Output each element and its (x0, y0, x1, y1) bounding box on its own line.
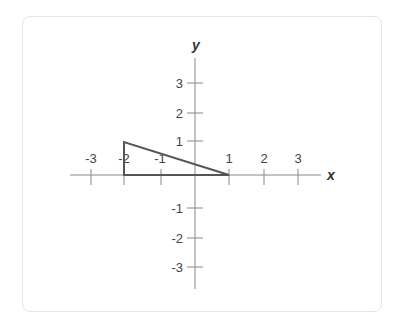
x-tick-label: 3 (294, 151, 301, 166)
x-tick-label: 1 (225, 151, 232, 166)
y-tick-label: -3 (171, 260, 183, 275)
y-tick-label: -1 (171, 201, 183, 216)
x-axis-label: x (326, 167, 336, 183)
y-tick-label: 2 (176, 106, 183, 121)
x-tick-label: -3 (85, 151, 97, 166)
x-tick-label: 2 (260, 151, 267, 166)
y-axis-label: y (191, 37, 201, 53)
coordinate-plane: -3 -2 -1 1 2 3 3 2 1 -1 -2 -3 x y (0, 0, 401, 327)
y-tick-label: -2 (171, 231, 183, 246)
y-tick-label: 3 (176, 76, 183, 91)
y-tick-label: 1 (176, 134, 183, 149)
